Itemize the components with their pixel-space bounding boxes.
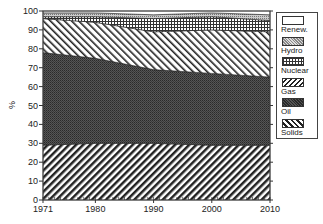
legend-label: Solids: [281, 128, 317, 138]
y-tick-label: 50: [28, 101, 38, 111]
y-tick-label: 20: [28, 157, 38, 167]
y-tick-label: 100: [23, 6, 38, 16]
legend-label: Renew.: [281, 25, 317, 35]
x-tick-label: 1990: [144, 204, 164, 214]
stacked-area-chart: 0102030405060708090100197119801990200020…: [0, 0, 323, 224]
legend-item-renew: Renew.: [282, 16, 317, 37]
legend-item-hydro: Hydro: [282, 37, 317, 58]
legend-item-gas: Gas: [282, 78, 317, 99]
area-solids: [43, 143, 270, 200]
legend-swatch: [282, 78, 304, 87]
y-tick-label: 70: [28, 63, 38, 73]
legend-swatch: [282, 37, 304, 46]
legend-label: Gas: [281, 87, 317, 97]
y-tick-label: 90: [28, 25, 38, 35]
legend-label: Hydro: [281, 46, 317, 56]
legend-item-oil: Oil: [282, 98, 317, 119]
x-tick-label: 1980: [85, 204, 105, 214]
x-tick-label: 2010: [260, 204, 280, 214]
x-tick-label: 2000: [202, 204, 222, 214]
legend-item-nuclear: Nuclear: [282, 57, 317, 78]
y-tick-label: 30: [28, 138, 38, 148]
plot-area: [43, 11, 270, 200]
legend-swatch: [282, 16, 304, 25]
y-tick-label: 40: [28, 119, 38, 129]
legend: Renew.HydroNuclearGasOilSolids: [276, 12, 318, 139]
legend-label: Nuclear: [281, 66, 317, 76]
y-axis-label: %: [7, 101, 17, 109]
legend-item-solids: Solids: [282, 119, 317, 140]
legend-swatch: [282, 98, 304, 107]
y-tick-label: 60: [28, 82, 38, 92]
y-tick-label: 10: [28, 176, 38, 186]
legend-label: Oil: [281, 107, 317, 117]
x-tick-label: 1971: [33, 204, 53, 214]
legend-swatch: [282, 119, 304, 128]
y-tick-label: 80: [28, 44, 38, 54]
legend-swatch: [282, 57, 304, 66]
